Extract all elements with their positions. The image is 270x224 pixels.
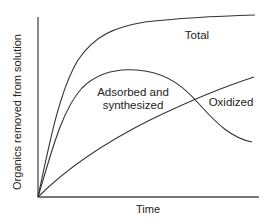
total-label: Total [185,29,209,41]
adsorbed-label-line1: Adsorbed and [97,86,169,98]
adsorbed-label-line2: synthesized [103,99,164,111]
chart: Total Adsorbed and synthesized Oxidized … [0,0,270,224]
oxidized-label: Oxidized [209,96,254,108]
y-axis-label: Organics removed from solution [11,34,23,190]
x-axis-label: Time [136,203,160,215]
